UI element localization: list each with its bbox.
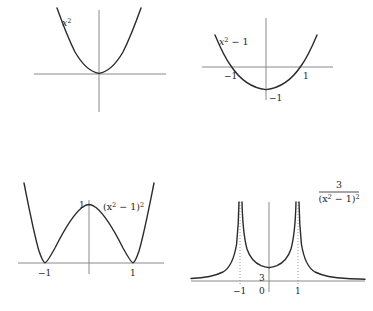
x-tick-label-neg-one: −1 [233, 286, 246, 296]
y-tick-label-neg-one: −1 [269, 93, 282, 103]
fraction-numerator: 3 [336, 179, 342, 190]
denominator-suffix: − 1) [332, 193, 356, 204]
x-tick-label-neg-one: −1 [224, 71, 237, 81]
curve-right-outer-branch [299, 202, 365, 279]
plot-three-over-quartic: 3 (x2 − 1)2 3 −1 0 1 [187, 156, 373, 311]
plot-x-squared: x2 [0, 0, 187, 156]
x-tick-label-one: 1 [295, 286, 301, 296]
curve-left-inner-branch [242, 202, 269, 268]
curve-right-inner-branch [269, 202, 296, 268]
figure-container: x2 x2 − 1 −1 1 −1 (x2 − 1)2 1 −1 1 [0, 0, 373, 311]
y-tick-label-one: 1 [79, 200, 85, 210]
function-label-three-over-quartic: 3 (x2 − 1)2 [318, 179, 359, 204]
y-tick-label-three: 3 [259, 273, 265, 283]
label-suffix: − 1 [229, 36, 249, 47]
fraction-denominator: (x2 − 1)2 [318, 193, 359, 204]
function-label-x-squared: x2 [62, 17, 72, 29]
function-label-x-squared-minus-one: x2 − 1 [219, 36, 249, 48]
x-tick-label-zero: 0 [259, 286, 265, 296]
curve-left-outer-branch [191, 202, 239, 279]
denominator-outer-exponent: 2 [355, 193, 359, 201]
label-suffix: − 1) [116, 201, 140, 212]
label-exponent: 2 [67, 17, 71, 25]
plot-x-squared-minus-one: x2 − 1 −1 1 −1 [187, 0, 373, 156]
label-outer-exponent: 2 [140, 201, 144, 209]
x-tick-label-one: 1 [130, 268, 136, 278]
x-tick-label-one: 1 [303, 71, 309, 81]
plot-x-squared-minus-one-squared: (x2 − 1)2 1 −1 1 [0, 156, 187, 311]
x-tick-label-neg-one: −1 [38, 268, 51, 278]
function-label-quartic: (x2 − 1)2 [103, 201, 144, 213]
